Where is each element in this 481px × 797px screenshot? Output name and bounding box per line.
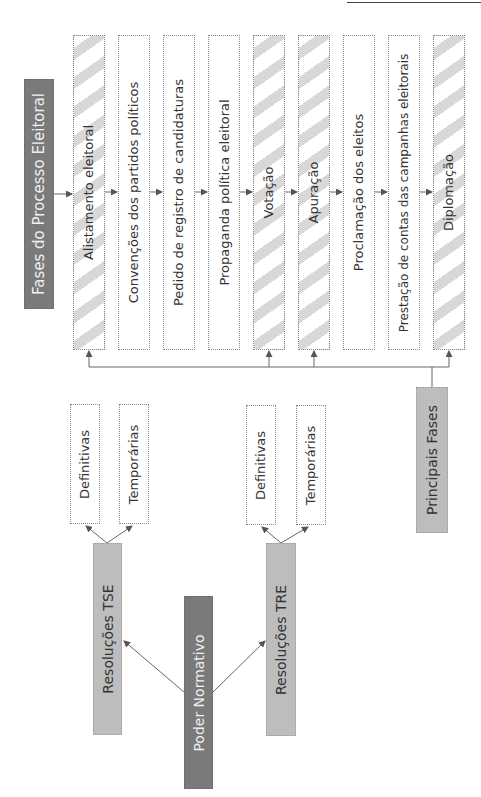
poder-normativo: Poder Normativo [184,596,213,789]
phase-label: Votação [262,167,277,219]
phase-convencoes: Convenções dos partidos políticos [118,35,150,350]
phase-label: Alistamento eleitoral [82,125,97,260]
principal-phases-label: Principais Fases [424,405,440,515]
resolucoes-tse: Resoluções TSE [93,543,122,735]
tse-temporarias: Temporárias [119,404,149,524]
phase-apuracao: Apuração [298,35,330,350]
tre-temporarias: Temporárias [296,405,326,525]
phase-proclamacao: Proclamação dos eleitos [343,35,375,350]
phase-votacao: Votação [253,35,285,350]
resolucoes-tse-label: Resoluções TSE [100,584,116,693]
principal-phases-box: Principais Fases [416,387,448,533]
phase-label: Pedido de registro de candidaturas [172,79,187,306]
phase-label: Convenções dos partidos políticos [127,82,142,304]
resolucoes-tre: Resoluções TRE [266,543,296,736]
phase-label: Proclamação dos eleitos [352,114,367,271]
phase-label: Prestação de contas das campanhas eleito… [397,53,411,332]
phase-label: Apuração [307,162,322,224]
tse-temporarias-label: Temporárias [127,424,142,504]
resolucoes-tre-label: Resoluções TRE [273,584,289,694]
process-phases-label: Fases do Processo Eleitoral [30,93,48,295]
phase-prestacao-contas: Prestação de contas das campanhas eleito… [388,35,420,350]
tse-definitivas: Definitivas [70,404,100,524]
process-phases-root: Fases do Processo Eleitoral [24,79,54,309]
phase-pedido-registro: Pedido de registro de candidaturas [163,35,195,350]
tre-definitivas: Definitivas [246,405,276,525]
tre-temporarias-label: Temporárias [304,425,319,505]
phase-diplomacao: Diplomação [433,35,465,350]
phase-label: Diplomação [442,154,457,231]
poder-normativo-label: Poder Normativo [191,634,207,751]
phase-label: Propaganda política eleitoral [217,99,232,285]
tse-definitivas-label: Definitivas [78,429,93,498]
phase-alistamento: Alistamento eleitoral [73,35,105,350]
tre-definitivas-label: Definitivas [254,430,269,499]
phase-propaganda: Propaganda política eleitoral [208,35,240,350]
